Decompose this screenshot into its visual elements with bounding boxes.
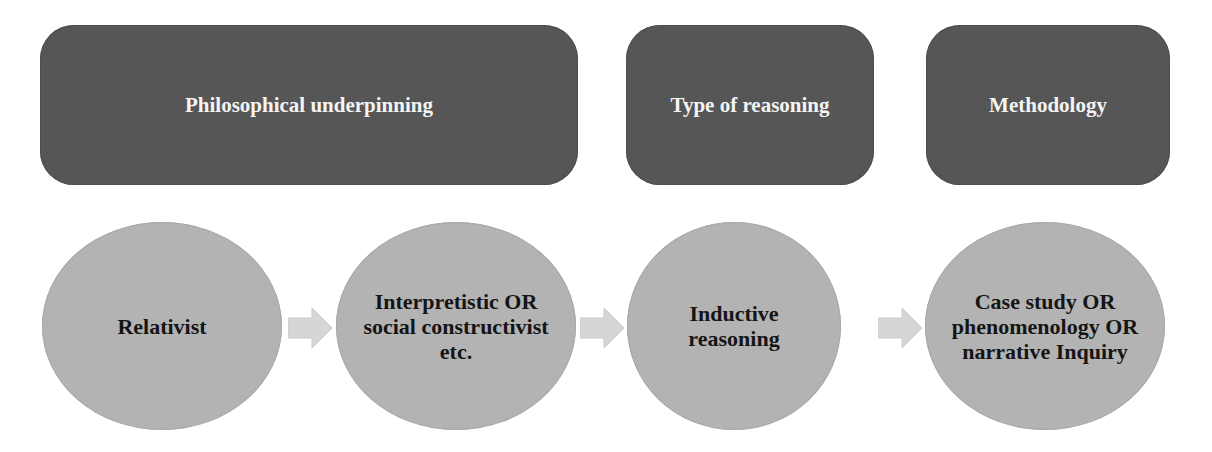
header-label: Methodology bbox=[989, 93, 1107, 118]
step-relativist: Relativist bbox=[42, 222, 282, 430]
arrow-right-icon bbox=[580, 308, 624, 348]
header-label: Philosophical underpinning bbox=[185, 93, 433, 118]
step-interpretistic-social-constructivist: Interpretistic OR social constructivist … bbox=[336, 222, 576, 430]
header-philosophical-underpinning: Philosophical underpinning bbox=[40, 25, 578, 185]
header-label: Type of reasoning bbox=[670, 93, 829, 118]
step-label: Inductive reasoning bbox=[688, 301, 779, 351]
arrow-right-icon bbox=[878, 308, 922, 348]
step-inductive-reasoning: Inductive reasoning bbox=[627, 222, 841, 430]
step-label: Case study OR phenomenology OR narrative… bbox=[952, 289, 1138, 364]
header-methodology: Methodology bbox=[926, 25, 1170, 185]
header-type-of-reasoning: Type of reasoning bbox=[626, 25, 874, 185]
arrow-right-icon bbox=[288, 308, 332, 348]
step-label: Relativist bbox=[117, 314, 206, 339]
step-case-study-phenomenology-narrative: Case study OR phenomenology OR narrative… bbox=[925, 222, 1165, 430]
step-label: Interpretistic OR social constructivist … bbox=[363, 289, 548, 364]
